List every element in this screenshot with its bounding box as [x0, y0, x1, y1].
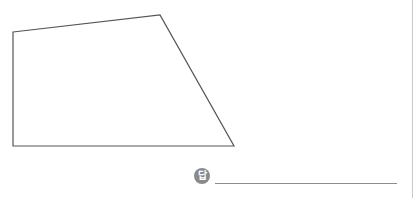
quadrilateral-shape [13, 15, 234, 146]
right-border-divider [412, 0, 413, 198]
quadrilateral-figure [0, 0, 415, 198]
answer-icon: 답 [194, 168, 210, 184]
answer-blank-line[interactable] [215, 183, 397, 184]
